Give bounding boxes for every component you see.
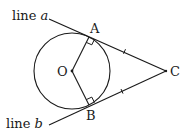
label-line-b: line b xyxy=(6,116,43,131)
center-point-o xyxy=(71,70,74,73)
line-b xyxy=(49,71,166,125)
tangent-diagram: line a A O C B line b xyxy=(0,0,186,133)
label-line-a: line a xyxy=(12,8,48,23)
label-point-b: B xyxy=(86,108,96,123)
label-point-c: C xyxy=(170,64,180,79)
label-point-a: A xyxy=(89,21,100,36)
label-point-o: O xyxy=(57,64,68,79)
point-c-dot xyxy=(165,70,167,72)
